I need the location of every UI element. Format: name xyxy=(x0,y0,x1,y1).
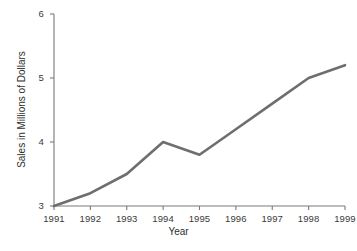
line-chart: 3456 19911992199319941995199619971998199… xyxy=(0,0,357,251)
x-tick-label: 1995 xyxy=(183,213,217,224)
x-tick-label: 1998 xyxy=(292,213,326,224)
y-tick-label: 3 xyxy=(22,200,44,211)
x-tick-label: 1992 xyxy=(73,213,107,224)
x-tick-label: 1993 xyxy=(110,213,144,224)
x-axis-ticks xyxy=(54,206,345,210)
y-tick-label: 6 xyxy=(22,8,44,19)
x-tick-label: 1997 xyxy=(255,213,289,224)
axis-spine-path xyxy=(54,14,345,206)
axis-spines xyxy=(54,14,345,206)
x-tick-label: 1999 xyxy=(328,213,357,224)
x-tick-label: 1991 xyxy=(37,213,71,224)
x-tick-label: 1994 xyxy=(146,213,180,224)
y-axis-title: Sales in Millions of Dollars xyxy=(16,30,27,190)
y-axis-ticks xyxy=(50,14,54,206)
data-series-line xyxy=(54,65,345,206)
x-axis-title: Year xyxy=(0,226,357,237)
x-tick-label: 1996 xyxy=(219,213,253,224)
